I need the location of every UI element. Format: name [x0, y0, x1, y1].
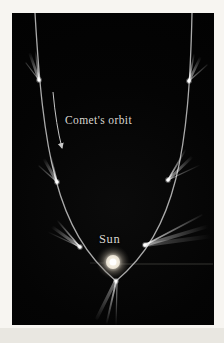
comet-head	[78, 245, 81, 248]
comet-tail	[44, 159, 57, 182]
comet-head	[187, 79, 190, 82]
comet-upper-right	[186, 49, 208, 85]
comet-head	[55, 180, 58, 183]
comet-orbit-figure: Comet's orbit Sun	[12, 13, 214, 325]
comet-tail	[116, 282, 117, 325]
comet-lower-right	[142, 215, 214, 249]
comet-mid-left	[39, 153, 61, 186]
orbit-direction-arrow	[53, 92, 62, 148]
comet-head	[115, 280, 118, 283]
orbit-diagram-svg	[12, 13, 214, 325]
comet-upper-left	[26, 47, 43, 84]
comet-mid-right	[165, 149, 201, 184]
comet-perihelion	[97, 278, 120, 326]
scanned-page: Comet's orbit Sun	[0, 0, 224, 343]
sun	[96, 245, 130, 279]
comet-head	[166, 178, 169, 181]
comet-head	[143, 243, 146, 246]
sun-core	[110, 259, 117, 266]
comet-head	[38, 79, 41, 82]
page-bottom-margin	[0, 328, 224, 343]
